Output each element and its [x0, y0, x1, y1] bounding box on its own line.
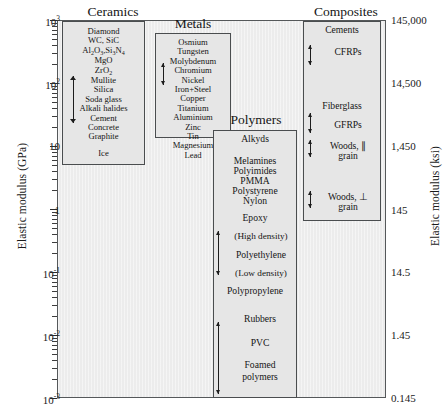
polymers-header: Polymers [212, 112, 300, 128]
polymers-item-foamed: Foamed [218, 360, 302, 371]
y-axis-minor-tick [52, 215, 57, 216]
y-axis-minor-tick [52, 219, 57, 220]
polymers-item-pvc: PVC [218, 338, 302, 349]
y-tick-right-1450: 1,450 [391, 140, 416, 152]
woods-perp-range-arrow [307, 191, 314, 208]
y-axis-minor-tick [52, 297, 57, 298]
composites-item-cements: Cements [303, 25, 381, 36]
y-axis-minor-tick [52, 53, 57, 54]
polymers-item-low-density: (Low density) [219, 268, 303, 279]
y-axis-minor-tick [52, 34, 57, 35]
polymers-item-polyethylene: Polyethylene [219, 250, 303, 261]
polymers-item-foamed-polymers: polymers [218, 372, 302, 383]
y-axis-minor-tick [52, 102, 57, 103]
y-axis-minor-tick [52, 116, 57, 117]
y-axis-minor-tick [52, 360, 57, 361]
y-tick-right-145: 145 [391, 204, 408, 216]
y-axis-minor-tick [52, 23, 57, 24]
cfrps-range-arrow [307, 45, 314, 65]
y-axis-minor-tick [52, 282, 57, 283]
y-axis-minor-tick [52, 275, 57, 276]
polyethylene-range-arrow [215, 231, 222, 275]
y-axis-minor-tick [52, 354, 57, 355]
list-item: Graphite [63, 132, 144, 141]
y-axis-minor-tick [52, 97, 57, 98]
polymers-lower-range-arrow [215, 322, 222, 394]
y-axis-major-tick [50, 335, 57, 336]
polymers-item-alkyds: Alkyds [213, 134, 297, 145]
y-axis-minor-tick [52, 152, 57, 153]
y-axis-major-tick [50, 83, 57, 84]
y-axis-minor-tick [52, 39, 57, 40]
polymers-item-epoxy: Epoxy [213, 213, 297, 224]
y-axis-minor-tick [52, 190, 57, 191]
y-axis-minor-tick [52, 228, 57, 229]
y-axis-minor-tick [52, 338, 57, 339]
y-axis-minor-tick [52, 379, 57, 380]
y-axis-minor-tick [52, 30, 57, 31]
y-axis-minor-tick [52, 345, 57, 346]
y-axis-minor-tick [52, 156, 57, 157]
y-axis-major-tick [50, 209, 57, 210]
composites-item-gfrps: GFRPs [309, 120, 387, 131]
list-item: Ice [63, 149, 144, 158]
gfrps-range-arrow [307, 113, 314, 133]
woods-parallel-range-arrow [307, 140, 314, 157]
y-axis-minor-tick [52, 93, 57, 94]
y-axis-minor-tick [52, 86, 57, 87]
composites-item-woods-parallel-grain: grain [309, 151, 387, 162]
elastic-modulus-chart: Elastic modulus (GPa) 103 102 10 1 10-1 … [0, 0, 446, 414]
y-axis-minor-tick [52, 89, 57, 90]
y-axis-major-tick [50, 272, 57, 273]
y-axis-minor-tick [52, 253, 57, 254]
composites-item-fiberglass: Fiberglass [303, 101, 381, 112]
y-axis-minor-tick [52, 45, 57, 46]
y-tick-right-0.145: 0.145 [391, 392, 416, 404]
y-tick-right-14500: 14,500 [391, 77, 421, 89]
composites-header: Composites [300, 4, 392, 20]
y-axis-minor-tick [52, 223, 57, 224]
y-axis-left-title: Elastic modulus (GPa) [16, 121, 28, 271]
polymers-item-polypropylene: Polypropylene [213, 286, 297, 297]
y-axis-minor-tick [52, 149, 57, 150]
metals-range-arrow [160, 63, 167, 85]
y-axis-major-tick [50, 146, 57, 147]
y-axis-minor-tick [52, 242, 57, 243]
y-axis-minor-tick [52, 165, 57, 166]
y-tick-right-1.45: 1.45 [391, 329, 410, 341]
y-axis-right-title: Elastic modulus (ksi) [429, 121, 441, 271]
composites-item-woods-perp-grain: grain [309, 202, 387, 213]
polymers-item-nylon: Nylon [213, 196, 297, 207]
y-axis-minor-tick [52, 171, 57, 172]
y-axis-minor-tick [52, 64, 57, 65]
composites-item-cfrps: CFRPs [309, 47, 387, 58]
y-axis-minor-tick [52, 286, 57, 287]
y-tick-right-145000: 145,000 [391, 14, 427, 26]
y-axis-minor-tick [52, 127, 57, 128]
y-axis-minor-tick [52, 179, 57, 180]
polymers-item-high-density: (High density) [219, 231, 303, 242]
ceramics-range-arrow [69, 76, 77, 123]
y-axis-minor-tick [52, 316, 57, 317]
polymers-item-rubbers: Rubbers [218, 314, 302, 325]
y-axis-minor-tick [52, 291, 57, 292]
y-axis-minor-tick [52, 212, 57, 213]
y-axis-major-tick [50, 398, 57, 399]
y-tick-right-14.5: 14.5 [391, 266, 410, 278]
y-axis-minor-tick [52, 160, 57, 161]
metals-header: Metals [150, 16, 236, 32]
y-axis-major-tick [50, 20, 57, 21]
y-axis-minor-tick [52, 349, 57, 350]
y-axis-minor-tick [52, 305, 57, 306]
y-axis-minor-tick [52, 26, 57, 27]
y-axis-minor-tick [52, 341, 57, 342]
y-axis-minor-tick [52, 368, 57, 369]
y-axis-minor-tick [52, 278, 57, 279]
y-axis-minor-tick [52, 234, 57, 235]
y-axis-minor-tick [52, 108, 57, 109]
